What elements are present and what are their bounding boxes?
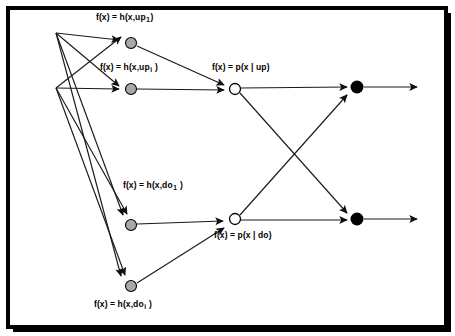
output-node-up[interactable]: [351, 81, 364, 94]
label-expert-up-i: f(x) = h(x,upi ): [100, 62, 158, 73]
figure-container: f(x) = h(x,up1) f(x) = h(x,upi ) f(x) = …: [0, 0, 455, 336]
output-node-do[interactable]: [351, 213, 364, 226]
label-gate-up: f(x) = p(x | up): [212, 62, 270, 72]
expert-node-up-i[interactable]: [126, 84, 137, 95]
expert-node-do-i[interactable]: [126, 281, 137, 292]
gate-node-up[interactable]: [230, 84, 241, 95]
diagram-canvas: [0, 0, 455, 336]
expert-node-do-1[interactable]: [126, 220, 137, 231]
label-expert-up-1: f(x) = h(x,up1): [96, 12, 153, 23]
label-expert-do-1: f(x) = h(x,do1 ): [123, 180, 183, 191]
frame-border: [8, 8, 446, 327]
label-expert-do-i: f(x) = h(x,doi ): [94, 299, 152, 310]
gate-node-do[interactable]: [230, 214, 241, 225]
label-gate-do: f(x) = p(x | do): [214, 230, 272, 240]
expert-node-up-1[interactable]: [126, 38, 137, 49]
